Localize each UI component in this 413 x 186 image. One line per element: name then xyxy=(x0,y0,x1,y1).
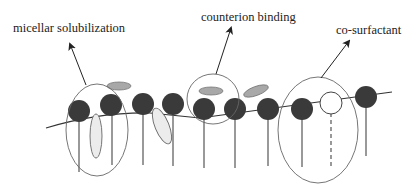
solubilizate-molecule-1 xyxy=(90,114,102,158)
counterion-3 xyxy=(242,82,270,99)
surfactant-interface-diagram: micellar solubilization counterion bindi… xyxy=(0,0,413,186)
arrow-counterion xyxy=(216,28,231,74)
label-micellar-solubilization: micellar solubilization xyxy=(13,22,125,35)
cosurfactant-region xyxy=(278,77,358,183)
label-counterion-binding: counterion binding xyxy=(201,11,296,24)
arrow-micellar xyxy=(70,44,86,85)
label-co-surfactant: co-surfactant xyxy=(336,24,401,37)
cosurfactant-head xyxy=(320,92,342,114)
arrow-cosurfactant xyxy=(321,41,349,78)
counterion-2 xyxy=(199,87,223,95)
